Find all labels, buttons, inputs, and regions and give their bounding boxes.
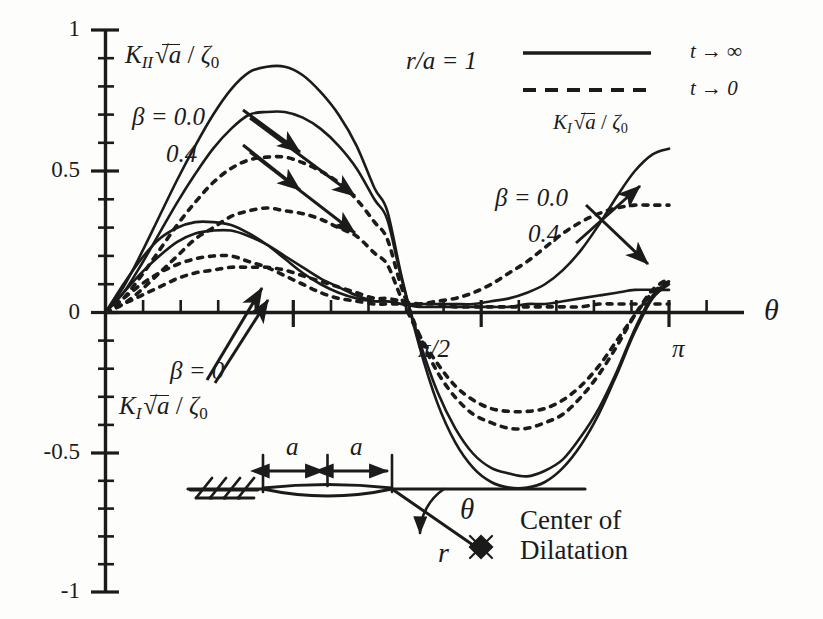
curve [106,157,670,429]
inset-crack-ellipse-bottom [263,489,392,496]
beta-label-right-line2: 0.4 [528,221,559,246]
y-tick-label-0: 0 [40,300,80,323]
curve [106,149,670,313]
inset-dimension-label-left: a [286,434,299,459]
legend-label-t-zero: t → 0 [690,78,738,99]
x-axis-label-theta: θ [764,295,779,325]
inset-angle-label: θ [460,495,474,524]
legend-label-t-infinity: t → ∞ [690,41,742,62]
y-tick-label-1: 1 [40,17,80,40]
inset-caption-line1: Center of [520,505,628,535]
inset-dimension-label-right: a [350,434,363,459]
beta-label-upper-left-line2: 0.4 [166,141,197,166]
inset-radius-label: r [438,539,449,567]
inset-caption-line2: Dilatation [520,535,628,565]
inset-center-of-dilatation-marker [470,536,492,558]
x-tick-label-pi: π [672,336,685,361]
x-tick-label-pi-over-2: π/2 [418,336,450,361]
y-tick-label-neg0p5: -0.5 [13,440,80,463]
legend-sample-lines [523,53,651,90]
ki-axis-label-lower-left: KI√a / ζ0 [119,393,208,422]
arrow-beta04-right [576,186,640,243]
figure-root: 1 0.5 0 -0.5 -1 π/2 π θ KII√a / ζ0 KI√a … [0,0,823,619]
y-tick-label-neg1: -1 [31,579,80,602]
beta-label-upper-left-line1: β = 0.0 [132,104,205,129]
kii-axis-label: KII√a / ζ0 [125,42,219,71]
arrow-beta00-right [586,205,648,264]
y-tick-label-0p5: 0.5 [22,158,80,181]
arrow-beta00-upper [243,110,300,152]
legend-caption-ki: KI√a / ζ0 [553,112,628,135]
beta-label-right-line1: β = 0.0 [495,185,568,210]
beta-label-lower-left: β = 0 [170,358,224,383]
ratio-label: r/a = 1 [406,48,477,73]
inset-caption: Center of Dilatation [520,505,628,565]
curve [106,267,670,312]
